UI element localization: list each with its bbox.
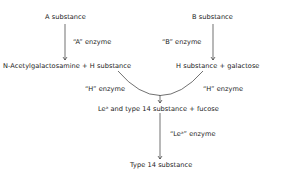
node-a-substance: A substance (45, 14, 86, 21)
enzyme-b-label: “B” enzyme (162, 39, 201, 46)
arc-h-substances (118, 71, 203, 96)
enzyme-h-left-label: “H” enzyme (85, 86, 125, 93)
node-right-product: H substance + galactose (176, 63, 259, 70)
node-type14: Type 14 substance (130, 162, 192, 169)
node-b-substance: B substance (192, 14, 233, 21)
enzyme-lea-label: “Leᵃ” enzyme (170, 131, 216, 138)
node-lea-product: Leᵃ and type 14 substance + fucose (98, 106, 219, 113)
node-left-product: N-Acetylgalactosamine + H substance (3, 63, 131, 70)
enzyme-h-right-label: “H” enzyme (203, 86, 243, 93)
enzyme-a-label: “A” enzyme (73, 39, 111, 46)
